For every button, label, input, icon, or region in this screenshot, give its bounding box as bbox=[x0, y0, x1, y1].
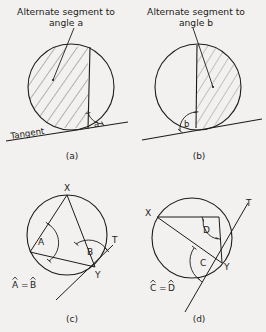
panel-d-caption: (d) bbox=[193, 314, 206, 324]
panel-b-leader-dot bbox=[212, 86, 214, 88]
panel-c-angle-a-label: A bbox=[38, 237, 45, 247]
panel-b: Alternate segment to angle b b (b) bbox=[142, 6, 262, 161]
panel-d: D C X Y T C = D (d) bbox=[145, 198, 252, 324]
panel-c-angle-b-label: B bbox=[87, 247, 93, 257]
panel-c-equation: A = B bbox=[12, 277, 36, 290]
alternate-segment-figure: Alternate segment to angle a a Tangent (… bbox=[0, 0, 266, 332]
panel-c-equation-left: A bbox=[12, 280, 19, 290]
panel-b-annotation-line2: angle b bbox=[179, 17, 213, 28]
panel-d-tangent-line bbox=[185, 203, 248, 312]
panel-b-annotation-line1: Alternate segment to bbox=[147, 6, 245, 17]
panel-c-caption: (c) bbox=[66, 314, 78, 324]
panel-d-angle-c-tick bbox=[192, 246, 196, 249]
panel-a-shaded-segment bbox=[20, 44, 88, 128]
panel-a: Alternate segment to angle a a Tangent (… bbox=[6, 6, 128, 161]
panel-c-chord-xa bbox=[30, 195, 67, 252]
panel-a-annotation-line1: Alternate segment to bbox=[17, 6, 115, 17]
panel-b-chord bbox=[196, 45, 197, 128]
panel-b-caption: (b) bbox=[193, 151, 206, 161]
panel-c-equation-operator: = bbox=[21, 280, 29, 290]
panel-c-equation-right: B bbox=[30, 280, 36, 290]
panel-b-angle-label: b bbox=[184, 119, 189, 129]
panel-a-leader-dot bbox=[52, 79, 54, 81]
panel-d-label-t: T bbox=[245, 198, 252, 208]
panel-c-label-x: X bbox=[64, 183, 70, 193]
panel-d-equation-right: D bbox=[168, 283, 175, 293]
panel-d-equation: C = D bbox=[150, 280, 175, 293]
panel-a-annotation-line2: angle a bbox=[49, 17, 83, 28]
panel-c-label-t: T bbox=[111, 235, 118, 245]
panel-d-chord-dy bbox=[219, 217, 222, 263]
panel-d-equation-operator: = bbox=[159, 283, 167, 293]
panel-c-label-y: Y bbox=[94, 270, 101, 280]
panel-d-label-x: X bbox=[145, 208, 151, 218]
panel-d-label-y: Y bbox=[223, 262, 230, 272]
panel-b-angle-tick bbox=[194, 112, 199, 113]
panel-c-tangent-line bbox=[56, 245, 113, 300]
panel-d-angle-c-arc bbox=[190, 248, 200, 280]
panel-d-angle-d-label: D bbox=[203, 225, 210, 235]
panel-a-tangent-label: Tangent bbox=[9, 126, 46, 141]
panel-d-chord-xy bbox=[157, 217, 222, 263]
panel-d-angle-c-tick2 bbox=[198, 278, 202, 282]
panel-c-angle-a-arc bbox=[48, 224, 59, 261]
panel-d-equation-left: C bbox=[150, 283, 156, 293]
panel-a-caption: (a) bbox=[66, 151, 79, 161]
panel-d-angle-c-label: C bbox=[200, 258, 206, 268]
panel-b-shaded-segment bbox=[197, 42, 248, 131]
panel-c: A B X Y T A = B (c) bbox=[12, 183, 118, 324]
panel-a-angle-label: a bbox=[94, 119, 99, 129]
